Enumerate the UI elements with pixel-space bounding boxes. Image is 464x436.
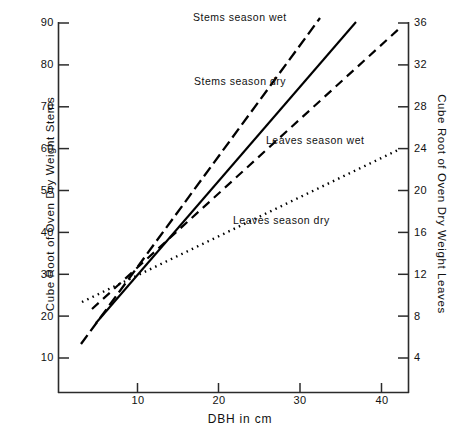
x-axis-title: DBH in cm xyxy=(160,412,320,426)
y-left-tick-label-30: 30 xyxy=(28,268,54,280)
y-axis-right-title: Cube Root of Oven Dry Weight Leaves xyxy=(436,54,448,354)
y-left-tick-label-20: 20 xyxy=(28,310,54,322)
y-right-tick-label-20: 20 xyxy=(414,184,440,196)
y-right-tick-label-32: 32 xyxy=(414,58,440,70)
y-right-tick-label-16: 16 xyxy=(414,226,440,238)
chart-plot-area xyxy=(0,0,464,436)
series-line-stems-season-dry xyxy=(96,22,356,323)
x-tick-label-30: 30 xyxy=(285,394,315,406)
y-right-tick-label-24: 24 xyxy=(414,142,440,154)
series-line-leaves-season-wet xyxy=(92,27,401,309)
y-left-tick-label-10: 10 xyxy=(28,351,54,363)
y-right-tick-label-8: 8 xyxy=(414,310,440,322)
bottom-axis-ticks xyxy=(138,383,382,392)
series-label-leaves-season-dry: Leaves season dry xyxy=(233,214,330,226)
left-axis-ticks xyxy=(58,23,69,358)
y-left-tick-label-90: 90 xyxy=(28,16,54,28)
y-left-tick-label-60: 60 xyxy=(28,142,54,154)
right-axis-ticks xyxy=(398,23,409,358)
caption-clipped xyxy=(34,428,364,436)
series-label-leaves-season-wet: Leaves season wet xyxy=(266,134,364,146)
series-label-stems-season-wet: Stems season wet xyxy=(193,11,287,23)
x-tick-label-10: 10 xyxy=(123,394,153,406)
figure-container: Cube Root of Oven Dry Weight Stems Cube … xyxy=(0,0,464,436)
y-left-tick-label-80: 80 xyxy=(28,58,54,70)
y-left-tick-label-40: 40 xyxy=(28,226,54,238)
y-right-tick-label-36: 36 xyxy=(414,16,440,28)
y-axis-left-title: Cube Root of Oven Dry Weight Stems xyxy=(44,54,56,354)
x-tick-label-40: 40 xyxy=(367,394,397,406)
x-tick-label-20: 20 xyxy=(204,394,234,406)
y-left-tick-label-70: 70 xyxy=(28,100,54,112)
series-label-stems-season-dry: Stems season dry xyxy=(194,75,286,87)
y-right-tick-label-28: 28 xyxy=(414,100,440,112)
y-right-tick-label-12: 12 xyxy=(414,268,440,280)
series-line-stems-season-wet xyxy=(81,18,320,344)
y-right-tick-label-4: 4 xyxy=(414,351,440,363)
y-left-tick-label-50: 50 xyxy=(28,184,54,196)
